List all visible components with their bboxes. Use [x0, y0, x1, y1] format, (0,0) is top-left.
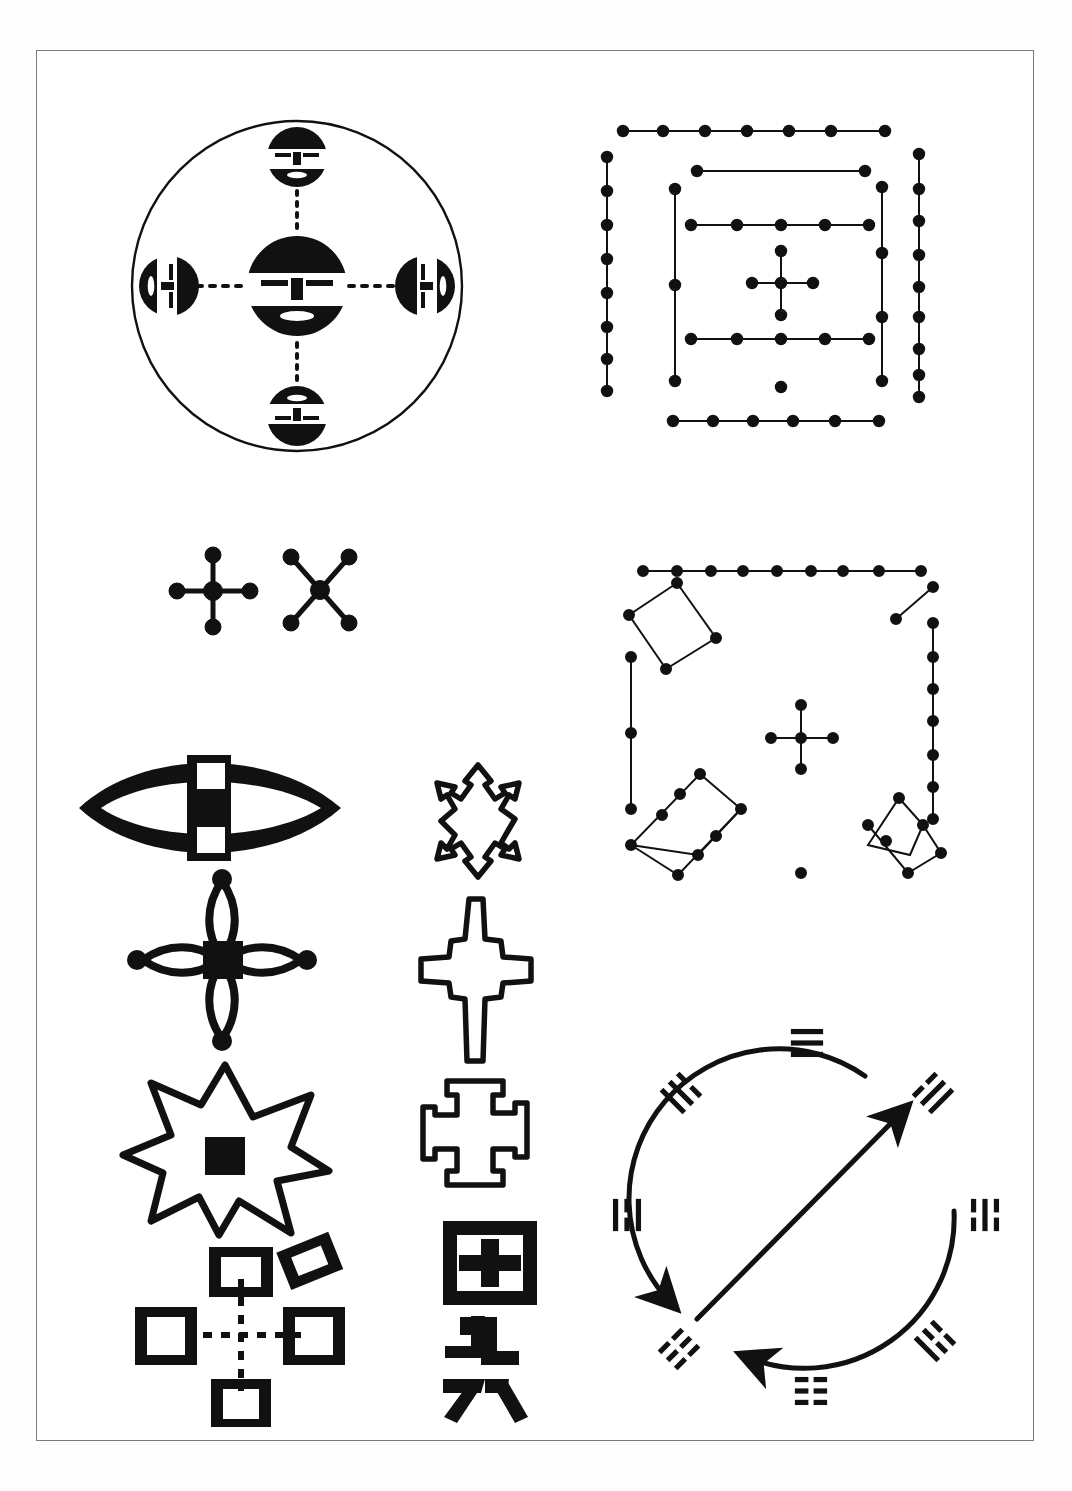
panel-trigram-circle — [607, 1019, 1007, 1429]
trigram-upper-right-xun — [912, 1072, 955, 1115]
panel-spiked-cross — [411, 893, 541, 1068]
glyph-liu-six — [443, 1316, 528, 1423]
panel-stepped-lozenge-cross — [415, 759, 545, 884]
trigram-lower-right-gen — [914, 1320, 957, 1363]
trigram-upper-left-dui — [660, 1072, 703, 1115]
panel-cross-and-saltire — [155, 537, 385, 647]
west-face — [139, 256, 199, 316]
trigram-bottom-kun — [795, 1377, 827, 1405]
saltire-quincunx — [283, 549, 357, 631]
panel-four-squares-quincunx — [113, 1223, 363, 1423]
diagonal-arrow — [697, 1111, 903, 1319]
isolated-dot — [796, 868, 806, 878]
lens-figure — [79, 755, 341, 861]
greek-cross-quincunx — [169, 547, 258, 635]
isolated-dot — [776, 382, 786, 392]
panel-chinese-characters — [425, 1213, 565, 1428]
north-face — [267, 127, 327, 187]
rosette-knob-bottom — [212, 1031, 232, 1051]
trigram-left-li — [613, 1199, 641, 1231]
star-center-square — [205, 1137, 245, 1175]
panel-eight-point-star — [115, 1059, 335, 1239]
trigram-right-kan — [971, 1199, 999, 1231]
rosette-knob-right — [297, 950, 317, 970]
panel-four-petal-rosette — [119, 869, 329, 1051]
panel-dot-plan-rotated-squares — [603, 553, 973, 903]
arc-arrow-upper — [629, 1049, 865, 1303]
rosette-knob-left — [127, 950, 147, 970]
site-plan-group — [624, 566, 946, 880]
figure-plate — [0, 0, 1072, 1491]
dot-plan-group — [602, 126, 924, 426]
trigram-lower-left-zhen — [658, 1328, 701, 1371]
stepped-lozenge-outline — [437, 765, 519, 877]
trigram-top-qian — [791, 1029, 823, 1057]
squares-group — [135, 1232, 345, 1427]
east-face — [395, 256, 455, 316]
bracket-cross-outline — [423, 1081, 527, 1185]
south-face — [267, 386, 327, 446]
spiked-cross-outline — [421, 899, 531, 1061]
panel-dot-plan-concentric — [597, 109, 957, 459]
rosette-knob-top — [212, 869, 232, 889]
center-face — [247, 236, 347, 336]
panel-quincunx-faces — [97, 81, 497, 491]
plate-frame — [36, 50, 1034, 1441]
panel-bracket-cross — [411, 1073, 541, 1198]
rosette-center — [203, 941, 243, 979]
panel-lens-with-cross — [73, 751, 353, 866]
glyph-tian-field — [443, 1221, 537, 1305]
